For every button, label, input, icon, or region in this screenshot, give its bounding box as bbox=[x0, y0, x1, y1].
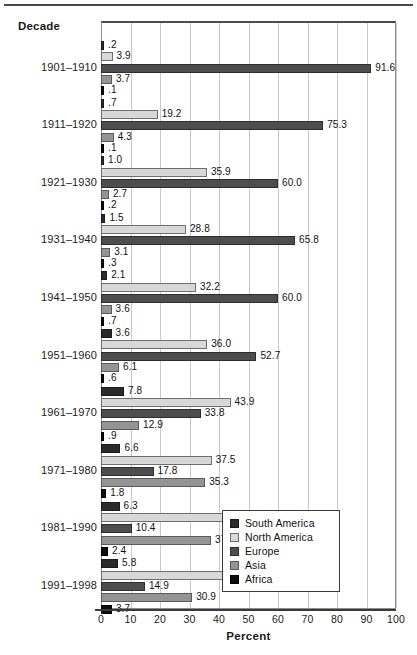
legend-swatch-icon bbox=[230, 547, 239, 556]
x-tick-70: 70 bbox=[296, 613, 320, 625]
bar-south-america: 2.1 bbox=[101, 271, 396, 280]
bar-fill-africa bbox=[101, 374, 104, 383]
bar-fill-north-america bbox=[101, 168, 207, 177]
bar-africa: .2 bbox=[101, 201, 396, 210]
bar-value-label: 65.8 bbox=[299, 234, 319, 245]
bar-value-label: .2 bbox=[108, 199, 117, 210]
x-tick-50: 50 bbox=[237, 613, 261, 625]
x-tick-20: 20 bbox=[148, 613, 172, 625]
decade-label: 1961–1970 bbox=[2, 406, 97, 418]
bar-fill-africa bbox=[101, 317, 104, 326]
bar-fill-south-america bbox=[101, 156, 104, 165]
decade-column-header: Decade bbox=[18, 20, 96, 32]
bar-fill-africa bbox=[101, 489, 106, 498]
bar-value-label: 28.8 bbox=[190, 223, 210, 234]
bar-europe: 60.0 bbox=[101, 179, 396, 188]
bar-value-label: 2.7 bbox=[113, 188, 127, 199]
bar-value-label: 2.4 bbox=[112, 545, 126, 556]
bar-south-america: 7.8 bbox=[101, 387, 396, 396]
bar-africa: .1 bbox=[101, 144, 396, 153]
bar-fill-south-america bbox=[101, 214, 105, 223]
bar-south-america: .7 bbox=[101, 99, 396, 108]
bar-value-label: .6 bbox=[108, 372, 117, 383]
legend-swatch-icon bbox=[230, 575, 239, 584]
bar-fill-north-america bbox=[101, 283, 196, 292]
bar-value-label: 1.0 bbox=[108, 154, 122, 165]
bar-value-label: 6.6 bbox=[124, 442, 138, 453]
bar-fill-north-america bbox=[101, 110, 158, 119]
bar-north-america: 28.8 bbox=[101, 225, 396, 234]
legend-item-north-america: North America bbox=[230, 530, 332, 544]
bar-fill-north-america bbox=[101, 571, 230, 580]
bar-fill-asia bbox=[101, 305, 112, 314]
bar-value-label: 52.7 bbox=[260, 350, 280, 361]
bar-asia: 3.6 bbox=[101, 305, 396, 314]
bar-value-label: 3.9 bbox=[117, 50, 131, 61]
bar-south-america: 1.0 bbox=[101, 156, 396, 165]
bar-asia: 2.7 bbox=[101, 190, 396, 199]
legend-item-africa: Africa bbox=[230, 572, 332, 586]
legend-label: North America bbox=[245, 531, 313, 543]
decade-label: 1921–1930 bbox=[2, 176, 97, 188]
bar-fill-asia bbox=[101, 248, 110, 257]
bar-value-label: 19.2 bbox=[162, 108, 182, 119]
bar-asia: 3.7 bbox=[101, 75, 396, 84]
bar-value-label: 2.1 bbox=[111, 269, 125, 280]
legend-label: Africa bbox=[245, 573, 272, 585]
bar-south-america: 6.6 bbox=[101, 444, 396, 453]
bar-fill-asia bbox=[101, 190, 109, 199]
bar-chart-figure: Decade .23.991.63.7.1.719.275.34.3.11.03… bbox=[0, 14, 417, 655]
bar-europe: 91.6 bbox=[101, 64, 396, 73]
bar-europe: 60.0 bbox=[101, 294, 396, 303]
decade-label: 1911–1920 bbox=[2, 118, 97, 130]
bar-value-label: 36.0 bbox=[211, 338, 231, 349]
bar-south-america: .2 bbox=[101, 41, 396, 50]
bar-fill-asia bbox=[101, 75, 112, 84]
bar-south-america: 3.6 bbox=[101, 329, 396, 338]
decade-label: 1901–1910 bbox=[2, 61, 97, 73]
bar-asia: 3.1 bbox=[101, 248, 396, 257]
bar-asia: 12.9 bbox=[101, 421, 396, 430]
bar-fill-europe bbox=[101, 352, 256, 361]
x-tick-40: 40 bbox=[207, 613, 231, 625]
bar-value-label: .1 bbox=[108, 142, 117, 153]
legend-label: Asia bbox=[245, 559, 266, 571]
legend-swatch-icon bbox=[230, 519, 239, 528]
bar-value-label: 33.8 bbox=[205, 407, 225, 418]
bar-fill-africa bbox=[101, 144, 104, 153]
bar-asia: 6.1 bbox=[101, 363, 396, 372]
bar-value-label: .9 bbox=[108, 430, 117, 441]
bar-fill-africa bbox=[101, 86, 104, 95]
bar-value-label: 35.3 bbox=[209, 476, 229, 487]
decade-label: 1971–1980 bbox=[2, 464, 97, 476]
gridline-100 bbox=[396, 23, 397, 608]
top-divider-rule bbox=[4, 4, 413, 6]
bar-value-label: 3.1 bbox=[114, 246, 128, 257]
bar-value-label: .2 bbox=[108, 39, 117, 50]
bar-fill-asia bbox=[101, 593, 192, 602]
bar-value-label: 4.3 bbox=[118, 131, 132, 142]
bar-value-label: 6.3 bbox=[124, 500, 138, 511]
bar-fill-europe bbox=[101, 467, 154, 476]
bar-asia: 4.3 bbox=[101, 133, 396, 142]
bar-value-label: 60.0 bbox=[282, 292, 302, 303]
bar-value-label: 35.9 bbox=[211, 166, 231, 177]
bar-fill-south-america bbox=[101, 99, 104, 108]
decade-label: 1981–1990 bbox=[2, 521, 97, 533]
x-tick-100: 100 bbox=[384, 613, 408, 625]
bar-fill-north-america bbox=[101, 340, 207, 349]
legend-swatch-icon bbox=[230, 561, 239, 570]
x-axis-line bbox=[95, 609, 396, 611]
bar-value-label: 1.5 bbox=[109, 212, 123, 223]
x-tick-80: 80 bbox=[325, 613, 349, 625]
legend-item-south-america: South America bbox=[230, 516, 332, 530]
bar-africa: .9 bbox=[101, 432, 396, 441]
x-tick-90: 90 bbox=[355, 613, 379, 625]
bar-europe: 65.8 bbox=[101, 236, 396, 245]
bar-value-label: .7 bbox=[108, 315, 117, 326]
x-tick-30: 30 bbox=[178, 613, 202, 625]
legend-item-asia: Asia bbox=[230, 558, 332, 572]
bar-fill-europe bbox=[101, 64, 371, 73]
bar-fill-europe bbox=[101, 409, 201, 418]
bar-fill-asia bbox=[101, 478, 205, 487]
